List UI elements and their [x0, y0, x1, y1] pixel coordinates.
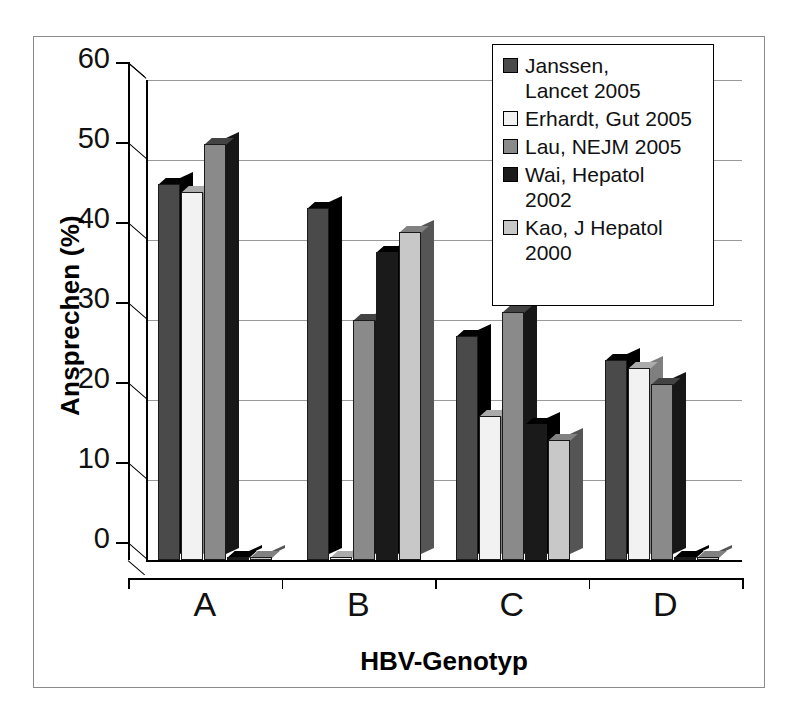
x-axis-title: HBV-Genotyp [146, 646, 742, 677]
y-tick-10 [116, 462, 128, 464]
legend-item-2: Erhardt, Gut 2005 [503, 106, 707, 131]
legend-item-3: Lau, NEJM 2005 [503, 134, 707, 159]
legend-item-label: Kao, J Hepatol2000 [525, 215, 663, 265]
bar-front-face [456, 336, 478, 560]
legend-swatch-icon [503, 58, 518, 73]
x-category-label-A: A [165, 585, 245, 624]
legend-swatch-icon [503, 167, 518, 182]
y-axis-top-connector [128, 62, 145, 77]
y-tick-50 [116, 142, 128, 144]
legend-swatch-icon [503, 139, 518, 154]
x-tick-3 [589, 578, 591, 589]
bar-front-face [628, 368, 650, 560]
y-axis-title: Ansprechen (%) [55, 186, 86, 446]
bar-front-face [605, 360, 627, 560]
legend-item-1: Janssen,Lancet 2005 [503, 53, 707, 103]
bar-front-face [548, 440, 570, 560]
bar-D-series-2 [628, 368, 650, 560]
legend-item-label-line2: Lancet 2005 [525, 78, 641, 103]
x-tick-1 [282, 578, 284, 589]
legend-item-label: Janssen,Lancet 2005 [525, 53, 641, 103]
bar-A-series-2 [181, 192, 203, 560]
plot-floor-line [146, 560, 742, 562]
bar-front-face [502, 312, 524, 560]
bar-front-face [307, 208, 329, 560]
bar-side-face [329, 196, 342, 554]
bar-B-series-5 [399, 232, 421, 560]
figure-container: 0102030405060 ABCD Ansprechen (%) HBV-Ge… [0, 0, 795, 711]
y-axis-bottom-connector [128, 560, 145, 575]
legend-item-label: Erhardt, Gut 2005 [525, 106, 692, 131]
bar-side-face [570, 428, 583, 554]
y-tick-connector-40 [128, 222, 147, 239]
y-tick-60 [116, 62, 128, 64]
x-tick-0 [128, 578, 130, 589]
x-category-label-C: C [472, 585, 552, 624]
y-tick-connector-20 [128, 382, 147, 399]
y-axis-front-line [146, 80, 148, 560]
legend-item-label: Lau, NEJM 2005 [525, 134, 681, 159]
bar-C-series-2 [479, 416, 501, 560]
x-category-label-D: D [625, 585, 705, 624]
bar-front-face [158, 184, 180, 560]
y-tick-connector-0 [128, 542, 147, 559]
bar-C-series-4 [525, 424, 547, 560]
legend-item-label-line2: 2002 [525, 187, 644, 212]
x-category-label-B: B [318, 585, 398, 624]
legend-item-5: Kao, J Hepatol2000 [503, 215, 707, 265]
bar-B-series-3 [353, 320, 375, 560]
x-tick-4 [742, 578, 744, 589]
chart-legend: Janssen,Lancet 2005Erhardt, Gut 2005Lau,… [492, 44, 714, 306]
x-tick-2 [435, 578, 437, 589]
y-tick-connector-50 [128, 142, 147, 159]
y-tick-40 [116, 222, 128, 224]
bar-front-face [376, 252, 398, 560]
bar-C-series-3 [502, 312, 524, 560]
bar-front-face [651, 384, 673, 560]
bar-front-face [525, 424, 547, 560]
bar-side-face [226, 132, 239, 554]
y-tick-connector-30 [128, 302, 147, 319]
bar-C-series-5 [548, 440, 570, 560]
y-axis-back-line [128, 62, 130, 560]
legend-swatch-icon [503, 111, 518, 126]
bar-A-series-3 [204, 144, 226, 560]
legend-item-4: Wai, Hepatol2002 [503, 162, 707, 212]
legend-item-label-line2: 2000 [525, 240, 663, 265]
bar-front-face [353, 320, 375, 560]
bar-side-face [673, 372, 686, 554]
bar-side-face [421, 220, 434, 554]
y-tick-connector-10 [128, 462, 147, 479]
y-tick-30 [116, 302, 128, 304]
bar-A-series-1 [158, 184, 180, 560]
y-tick-20 [116, 382, 128, 384]
bar-front-face [204, 144, 226, 560]
bar-D-series-3 [651, 384, 673, 560]
y-tick-0 [116, 542, 128, 544]
legend-item-label: Wai, Hepatol2002 [525, 162, 644, 212]
bar-front-face [181, 192, 203, 560]
bar-B-series-4 [376, 252, 398, 560]
bar-front-face [399, 232, 421, 560]
bar-front-face [479, 416, 501, 560]
chart-plot-area: 0102030405060 ABCD Ansprechen (%) HBV-Ge… [0, 0, 795, 711]
bar-C-series-1 [456, 336, 478, 560]
legend-swatch-icon [503, 220, 518, 235]
bar-D-series-1 [605, 360, 627, 560]
bar-B-series-1 [307, 208, 329, 560]
